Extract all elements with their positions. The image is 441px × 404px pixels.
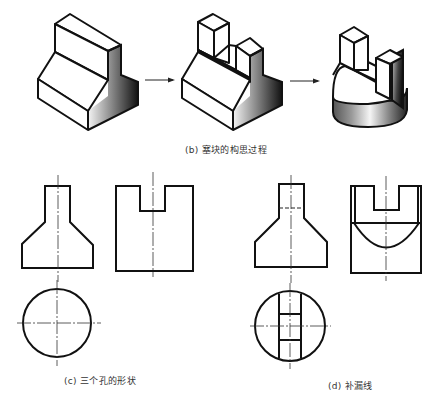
panel-d-front-view [255,175,327,283]
panel-d-top-view [250,283,331,369]
caption-d: (d) 补漏线 [328,379,373,392]
arrow-2 [290,79,320,84]
caption-b: (b) 塞块的构思过程 [185,143,267,156]
panel-c-side-view [116,172,193,277]
isometric-stage-1 [38,14,138,130]
arrow-1 [145,78,175,83]
drawing-canvas [0,0,441,404]
panel-c-front-view [22,175,93,282]
caption-c: (c) 三个孔的形状 [64,374,136,387]
panel-c-top-view [17,280,101,366]
panel-d-side-view [351,176,421,281]
isometric-stage-3 [333,27,407,127]
isometric-stage-2 [182,14,282,130]
